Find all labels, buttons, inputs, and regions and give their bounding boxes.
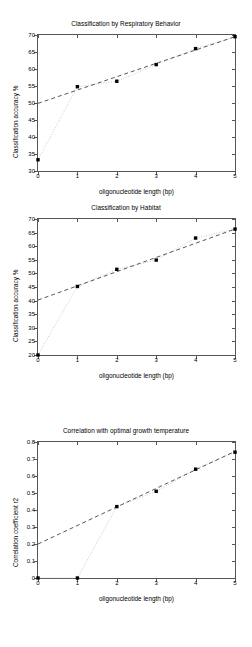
y-axis-tick-label: 60	[28, 66, 35, 72]
y-axis-tick-label: 50	[28, 100, 35, 106]
data-point-marker	[115, 268, 118, 271]
x-axis-tick-label: 1	[76, 173, 79, 179]
data-point-marker	[76, 85, 79, 88]
x-axis-tick-label: 3	[155, 173, 158, 179]
x-axis-title: oligonucleotide length (bp)	[37, 595, 236, 602]
y-axis-tick-label: 70	[28, 216, 35, 222]
series-layer	[38, 442, 235, 578]
plot-area: 00.10.20.30.40.50.60.70.8012345	[37, 441, 236, 579]
x-axis-tick-label: 2	[115, 357, 118, 363]
data-point-marker	[194, 236, 197, 239]
y-axis-tick-label: 0.6	[27, 473, 35, 479]
y-axis-tick-label: 60	[28, 243, 35, 249]
y-axis-tick-label: 0.4	[27, 507, 35, 513]
chart-title: Correlation with optimal growth temperat…	[0, 427, 252, 434]
y-axis-tick-label: 55	[28, 257, 35, 263]
data-point-marker	[194, 47, 197, 50]
x-axis-tick-label: 3	[155, 580, 158, 586]
y-axis-tick-label: 30	[28, 325, 35, 331]
x-axis-title: oligonucleotide length (bp)	[37, 188, 236, 195]
chart-title: Classification by Habitat	[0, 204, 252, 211]
x-axis-tick-label: 0	[36, 580, 39, 586]
x-axis-tick-top	[235, 442, 236, 445]
plot-area: 303540455055606570012345	[37, 34, 236, 172]
x-axis-title: oligonucleotide length (bp)	[37, 372, 236, 379]
x-axis-tick-label: 0	[36, 173, 39, 179]
y-axis-tick-label: 0.8	[27, 439, 35, 445]
x-axis-tick-label: 4	[194, 580, 197, 586]
x-axis-tick-label: 1	[76, 357, 79, 363]
data-line	[38, 37, 235, 160]
y-axis-tick-label: 0.3	[27, 524, 35, 530]
y-axis-tick-label: 45	[28, 284, 35, 290]
x-axis-tick-label: 4	[194, 357, 197, 363]
data-point-marker	[155, 63, 158, 66]
y-axis-tick-label: 25	[28, 338, 35, 344]
data-point-marker	[233, 35, 236, 38]
y-axis-tick-label: 70	[28, 32, 35, 38]
data-point-marker	[36, 353, 39, 356]
plot-inner: 2025303540455055606570012345	[38, 219, 235, 355]
y-axis-tick-label: 55	[28, 83, 35, 89]
x-axis-tick-label: 5	[233, 580, 236, 586]
data-point-marker	[155, 490, 158, 493]
data-point-marker	[115, 80, 118, 83]
y-axis-tick-label: 0.2	[27, 541, 35, 547]
y-axis-tick-label: 0.1	[27, 558, 35, 564]
y-axis-tick-label: 0.5	[27, 490, 35, 496]
y-axis-tick-label: 0	[32, 575, 35, 581]
data-point-marker	[76, 285, 79, 288]
y-axis-tick-label: 20	[28, 352, 35, 358]
chart-habitat: Classification by Habitat 20253035404550…	[0, 202, 252, 402]
data-line	[38, 229, 235, 355]
series-layer	[38, 219, 235, 355]
plot-inner: 303540455055606570012345	[38, 35, 235, 171]
y-axis-tick-label: 65	[28, 230, 35, 236]
y-axis-tick-label: 65	[28, 49, 35, 55]
series-layer	[38, 35, 235, 171]
y-axis-tick-label: 0.7	[27, 456, 35, 462]
data-line	[38, 452, 235, 578]
x-axis-tick-label: 2	[115, 173, 118, 179]
y-axis-tick-label: 50	[28, 270, 35, 276]
x-axis-tick-label: 2	[115, 580, 118, 586]
data-point-marker	[194, 468, 197, 471]
x-axis-tick-label: 4	[194, 173, 197, 179]
data-point-marker	[36, 158, 39, 161]
data-point-marker	[115, 505, 118, 508]
plot-inner: 00.10.20.30.40.50.60.70.8012345	[38, 442, 235, 578]
y-axis-tick-label: 35	[28, 311, 35, 317]
figure-panel: Classification by Respiratory Behavior 3…	[0, 0, 252, 647]
y-axis-tick-label: 40	[28, 298, 35, 304]
x-axis-tick-top	[235, 219, 236, 222]
y-axis-title: Correlation coefficient r2	[12, 498, 19, 567]
data-point-marker	[233, 227, 236, 230]
data-point-marker	[233, 451, 236, 454]
data-point-marker	[36, 576, 39, 579]
x-axis-tick-label: 3	[155, 357, 158, 363]
plot-area: 2025303540455055606570012345	[37, 218, 236, 356]
data-point-marker	[76, 576, 79, 579]
fit-line	[38, 229, 235, 300]
y-axis-tick-label: 35	[28, 151, 35, 157]
x-axis-tick-label: 0	[36, 357, 39, 363]
fit-line	[38, 451, 235, 544]
chart-title: Classification by Respiratory Behavior	[0, 20, 252, 27]
y-axis-tick-label: 30	[28, 168, 35, 174]
chart-growth-temperature: Correlation with optimal growth temperat…	[0, 425, 252, 625]
y-axis-tick-label: 40	[28, 134, 35, 140]
x-axis-tick-label: 5	[233, 357, 236, 363]
chart-respiratory-behavior: Classification by Respiratory Behavior 3…	[0, 18, 252, 218]
fit-line	[38, 37, 235, 104]
y-axis-title: Classification accuracy %	[12, 270, 19, 342]
x-axis-tick-label: 1	[76, 580, 79, 586]
y-axis-title: Classification accuracy %	[12, 86, 19, 158]
data-point-marker	[155, 258, 158, 261]
y-axis-tick-label: 45	[28, 117, 35, 123]
x-axis-tick-label: 5	[233, 173, 236, 179]
